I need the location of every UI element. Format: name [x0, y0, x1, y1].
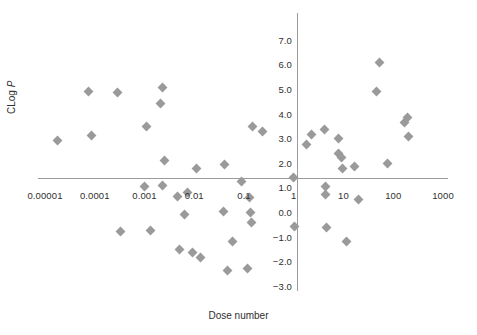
y-tick-label: 0.0: [262, 207, 292, 218]
data-point: [301, 139, 311, 149]
data-point: [84, 87, 94, 97]
y-tick-label: 7.0: [262, 34, 292, 45]
y-axis-line: [297, 13, 298, 291]
y-tick-label: 5.0: [262, 84, 292, 95]
data-point: [142, 121, 152, 131]
data-point: [191, 163, 201, 173]
data-point: [246, 208, 256, 218]
x-axis-title: Dose number: [0, 310, 477, 321]
y-tick-label: −1.0: [262, 231, 292, 242]
data-point: [180, 210, 190, 220]
y-tick-label: 3.0: [262, 133, 292, 144]
x-tick-label: 0.01: [185, 190, 204, 201]
data-point: [86, 130, 96, 140]
data-point: [223, 265, 233, 275]
x-tick-label: 10: [338, 190, 349, 201]
data-point: [371, 87, 381, 97]
y-axis-title: CLog P: [6, 81, 17, 114]
data-point: [334, 134, 344, 144]
data-point: [307, 130, 317, 140]
data-point: [173, 192, 183, 202]
y-tick-label: −3.0: [262, 280, 292, 291]
data-point: [146, 225, 156, 235]
y-tick-label: 4.0: [262, 108, 292, 119]
y-tick-label: 1.0: [262, 182, 292, 193]
data-point: [156, 98, 166, 108]
x-tick-label: 100: [385, 190, 401, 201]
data-point: [404, 132, 414, 142]
x-tick-label: 1000: [432, 190, 454, 201]
plot-area: 0.000010.00010.0010.010.11101001000 7.06…: [0, 0, 477, 335]
data-point: [354, 194, 364, 204]
y-tick-label: 6.0: [262, 59, 292, 70]
data-point: [159, 155, 169, 165]
data-point: [383, 159, 393, 169]
data-point: [218, 207, 228, 217]
data-point: [227, 236, 237, 246]
data-point: [350, 161, 360, 171]
data-point: [175, 244, 185, 254]
x-tick-label: 0.001: [132, 190, 156, 201]
data-point: [196, 253, 206, 263]
scatter-plot-figure: 0.000010.00010.0010.010.11101001000 7.06…: [0, 0, 477, 335]
data-point: [342, 236, 352, 246]
data-point: [53, 136, 63, 146]
data-point: [374, 58, 384, 68]
data-point: [322, 223, 332, 233]
x-tick-label: 0.0001: [80, 190, 110, 201]
data-point: [116, 227, 126, 237]
data-point: [337, 164, 347, 174]
x-tick-label: 0.00001: [27, 190, 62, 201]
y-tick-label: 2.0: [262, 157, 292, 168]
data-point: [243, 264, 253, 274]
data-point: [321, 189, 331, 199]
data-point: [248, 122, 258, 132]
data-point: [158, 181, 168, 191]
y-axis-title-italic: P: [6, 81, 17, 88]
data-point: [219, 160, 229, 170]
data-point: [157, 83, 167, 93]
y-axis-title-prefix: CLog: [6, 87, 17, 114]
x-tick-label: 0.1: [237, 190, 251, 201]
y-tick-label: −2.0: [262, 256, 292, 267]
data-point: [113, 88, 123, 98]
data-point: [320, 124, 330, 134]
data-point: [246, 217, 256, 227]
